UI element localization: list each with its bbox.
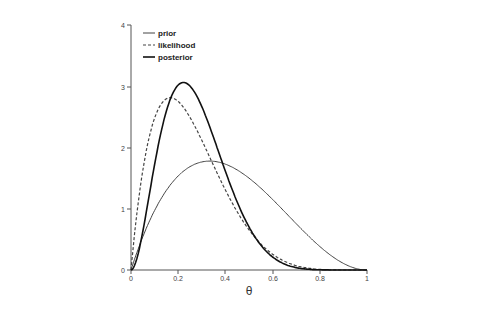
legend-likelihood: likelihood bbox=[158, 41, 195, 50]
y-tick-2: 2 bbox=[121, 145, 125, 152]
x-tick-5: 1 bbox=[365, 275, 369, 282]
y-tick-1: 1 bbox=[121, 206, 125, 213]
legend: prior likelihood posterior bbox=[143, 29, 195, 62]
x-tick-1: 0.2 bbox=[173, 275, 183, 282]
y-tick-3: 3 bbox=[121, 84, 125, 91]
x-tick-4: 0.8 bbox=[315, 275, 325, 282]
x-tick-0: 0 bbox=[129, 275, 133, 282]
legend-posterior: posterior bbox=[158, 53, 193, 62]
chart: 0 1 2 3 4 0 0.2 0.4 0.6 0.8 1 θ prior li… bbox=[0, 0, 479, 312]
legend-prior: prior bbox=[158, 29, 176, 38]
y-tick-4: 4 bbox=[121, 22, 125, 29]
x-axis-label: θ bbox=[246, 284, 253, 298]
likelihood-curve bbox=[131, 98, 367, 270]
posterior-curve bbox=[131, 83, 367, 271]
prior-curve bbox=[131, 161, 367, 270]
x-tick-3: 0.6 bbox=[268, 275, 278, 282]
x-tick-2: 0.4 bbox=[220, 275, 230, 282]
y-tick-0: 0 bbox=[121, 267, 125, 274]
y-axis bbox=[127, 25, 131, 270]
